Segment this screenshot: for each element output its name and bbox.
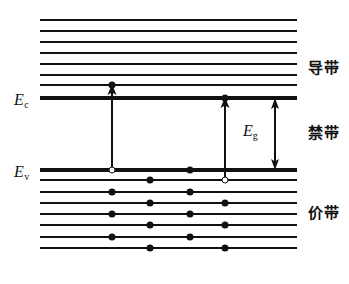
energy-level-valence-4 xyxy=(40,213,297,216)
energy-level-valence-1 xyxy=(40,179,297,182)
energy-band-diagram: Ec Ev Eg 导带 禁带 价带 xyxy=(0,0,349,284)
electron-marker xyxy=(222,245,229,252)
ev-symbol: E xyxy=(14,163,24,180)
energy-level-conduction-6 xyxy=(40,84,297,87)
energy-level-conduction-7 xyxy=(40,96,297,99)
valence-band-name: 价带 xyxy=(308,206,340,221)
energy-level-conduction-4 xyxy=(40,63,297,66)
electron-marker xyxy=(147,245,154,252)
electron-marker xyxy=(109,189,116,196)
electron-marker xyxy=(187,234,194,241)
energy-level-conduction-2 xyxy=(40,41,297,44)
hole-marker xyxy=(222,177,229,184)
energy-level-conduction-0 xyxy=(40,19,297,22)
energy-level-valence-6 xyxy=(40,236,297,239)
right-transition xyxy=(215,96,235,182)
ev-subscript: v xyxy=(24,171,29,182)
electron-marker xyxy=(222,222,229,229)
energy-level-valence-2 xyxy=(40,191,297,194)
electron-marker xyxy=(222,95,229,102)
ec-subscript: c xyxy=(24,99,28,110)
energy-level-conduction-5 xyxy=(40,74,297,77)
electron-marker xyxy=(109,234,116,241)
energy-level-valence-5 xyxy=(40,224,297,227)
electron-marker xyxy=(222,200,229,207)
energy-level-conduction-1 xyxy=(40,30,297,33)
electron-marker xyxy=(109,211,116,218)
hole-marker xyxy=(109,167,116,174)
electron-marker xyxy=(147,222,154,229)
ec-symbol: E xyxy=(14,91,24,108)
energy-level-valence-7 xyxy=(40,247,297,250)
eg-symbol: E xyxy=(243,122,253,139)
electron-marker xyxy=(187,211,194,218)
electron-marker xyxy=(187,167,194,174)
band-gap-double-arrow xyxy=(265,98,285,172)
valence-band-edge-label: Ev xyxy=(14,164,29,180)
electron-marker xyxy=(109,82,116,89)
conduction-band-name: 导带 xyxy=(308,61,340,76)
electron-marker xyxy=(187,189,194,196)
electron-marker xyxy=(147,177,154,184)
forbidden-band-name: 禁带 xyxy=(308,126,340,141)
eg-subscript: g xyxy=(253,130,258,141)
energy-level-conduction-3 xyxy=(40,52,297,55)
energy-level-valence-3 xyxy=(40,202,297,205)
electron-marker xyxy=(147,200,154,207)
energy-level-valence-0 xyxy=(40,168,297,171)
band-gap-label: Eg xyxy=(243,123,258,139)
conduction-band-edge-label: Ec xyxy=(14,92,28,108)
left-transition xyxy=(102,83,122,172)
